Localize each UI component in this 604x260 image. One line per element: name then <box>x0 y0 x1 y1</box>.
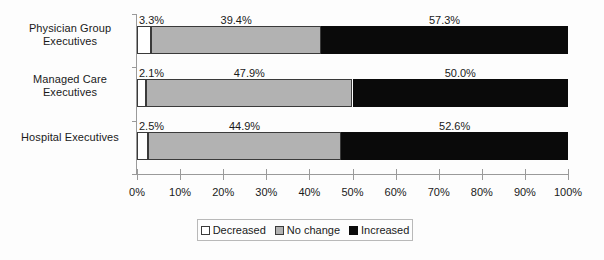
bar-segment-no-change <box>146 79 352 107</box>
x-axis-tick <box>439 169 440 180</box>
legend-item-increased: Increased <box>349 224 409 236</box>
data-label: 52.6% <box>425 120 485 132</box>
x-axis-tick-label: 70% <box>416 186 462 198</box>
x-axis-tick-label: 80% <box>459 186 505 198</box>
category-label-line: Executives <box>8 86 132 99</box>
category-label-hospital-executives: Hospital Executives <box>8 131 132 144</box>
no-change-swatch-icon <box>275 226 284 235</box>
data-label: 44.9% <box>215 120 275 132</box>
bar-segment-increased <box>353 79 569 107</box>
x-axis-tick <box>353 169 354 180</box>
increased-swatch-icon <box>349 226 358 235</box>
x-axis-tick <box>396 169 397 180</box>
x-axis-tick <box>137 169 138 180</box>
decreased-swatch-icon <box>201 226 210 235</box>
bar-segment-increased <box>321 26 568 54</box>
x-axis-tick-label: 50% <box>330 186 376 198</box>
x-axis-tick-label: 20% <box>200 186 246 198</box>
x-axis-tick <box>223 169 224 180</box>
bar-row <box>137 26 568 54</box>
legend-label: Decreased <box>213 224 266 236</box>
x-axis-tick <box>568 169 569 180</box>
bar-row <box>137 132 568 160</box>
data-label: 47.9% <box>219 67 279 79</box>
plot-area: 0%10%20%30%40%50%60%70%80%90%100% 3.3%39… <box>137 14 568 174</box>
x-axis-tick-label: 60% <box>373 186 419 198</box>
data-label: 39.4% <box>206 14 266 26</box>
chart-legend: Decreased No change Increased <box>197 219 413 241</box>
x-axis-tick-label: 10% <box>157 186 203 198</box>
data-label: 57.3% <box>415 14 475 26</box>
legend-item-decreased: Decreased <box>201 224 266 236</box>
bar-segment-decreased <box>137 132 148 160</box>
x-axis-tick-label: 90% <box>502 186 548 198</box>
data-label: 2.1% <box>139 67 164 79</box>
category-label-line: Executives <box>8 35 132 48</box>
bar-row <box>137 79 568 107</box>
y-axis-tick <box>132 174 137 175</box>
bar-segment-decreased <box>137 26 151 54</box>
category-label-line: Managed Care <box>8 73 132 86</box>
x-axis-tick-label: 0% <box>114 186 160 198</box>
x-axis-tick-label: 40% <box>286 186 332 198</box>
x-axis-tick-label: 100% <box>545 186 591 198</box>
x-axis-tick <box>482 169 483 180</box>
stacked-bar-chart: Physician Group Executives Managed Care … <box>0 0 604 260</box>
y-axis-tick <box>132 14 137 15</box>
category-label-managed-care-executives: Managed Care Executives <box>8 73 132 99</box>
data-label: 2.5% <box>139 120 164 132</box>
y-axis-tick <box>132 67 137 68</box>
legend-label: Increased <box>361 224 409 236</box>
x-axis-tick <box>525 169 526 180</box>
data-label: 50.0% <box>430 67 490 79</box>
legend-label: No change <box>287 224 340 236</box>
x-axis-tick <box>309 169 310 180</box>
bar-segment-no-change <box>148 132 342 160</box>
x-axis-tick <box>180 169 181 180</box>
bar-segment-increased <box>341 132 568 160</box>
x-axis-tick <box>266 169 267 180</box>
category-label-line: Physician Group <box>8 22 132 35</box>
bar-segment-no-change <box>151 26 321 54</box>
y-axis-tick <box>132 121 137 122</box>
data-label: 3.3% <box>139 14 164 26</box>
category-label-physician-group-executives: Physician Group Executives <box>8 22 132 48</box>
bar-segment-decreased <box>137 79 146 107</box>
legend-item-no-change: No change <box>275 224 340 236</box>
x-axis-tick-label: 30% <box>243 186 289 198</box>
category-label-line: Hospital Executives <box>8 131 132 144</box>
